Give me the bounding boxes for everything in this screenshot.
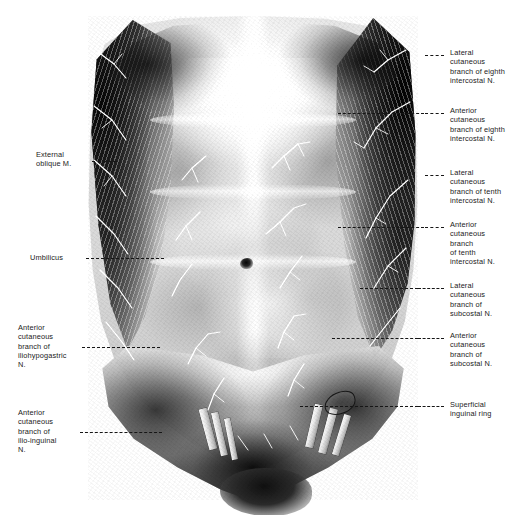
leader-anterior-tenth [425,227,444,228]
leader-anterior-eighth [425,113,444,114]
leader-lateral-tenth [425,175,444,176]
leader-anterior-subcostal [418,338,444,339]
label-anterior-cutaneous-branch-iliohypogastric: Anterior cutaneous branch of iliohypogas… [18,323,82,369]
label-anterior-cutaneous-branch-tenth-intercostal: Anterior cutaneous branch of tenth inter… [450,220,530,266]
leader-lateral-eighth [425,55,444,56]
label-lateral-cutaneous-branch-eighth-intercostal: Lateral cutaneous branch of eighth inter… [450,48,530,85]
label-anterior-cutaneous-branch-ilio-inguinal: Anterior cutaneous branch of ilio-inguin… [18,408,78,454]
label-superficial-inguinal-ring: Superficial inguinal ring [450,400,530,419]
label-umbilicus: Umbilicus [30,253,84,262]
label-anterior-cutaneous-branch-eighth-intercostal: Anterior cutaneous branch of eighth inte… [450,106,530,143]
specimen-photograph [88,16,418,500]
label-lateral-cutaneous-branch-tenth-intercostal: Lateral cutaneous branch of tenth interc… [450,168,530,205]
leader-superficial-inguinal [418,406,444,407]
anatomical-plate: Lateral cutaneous branch of eighth inter… [0,0,531,515]
label-anterior-cutaneous-branch-subcostal: Anterior cutaneous branch of subcostal N… [450,331,530,368]
halftone-grain-overlay [88,16,418,500]
label-lateral-cutaneous-branch-subcostal: Lateral cutaneous branch of subcostal N. [450,281,530,318]
label-external-oblique-muscle: External oblique M. [36,150,92,169]
leader-lateral-subcostal [418,288,444,289]
